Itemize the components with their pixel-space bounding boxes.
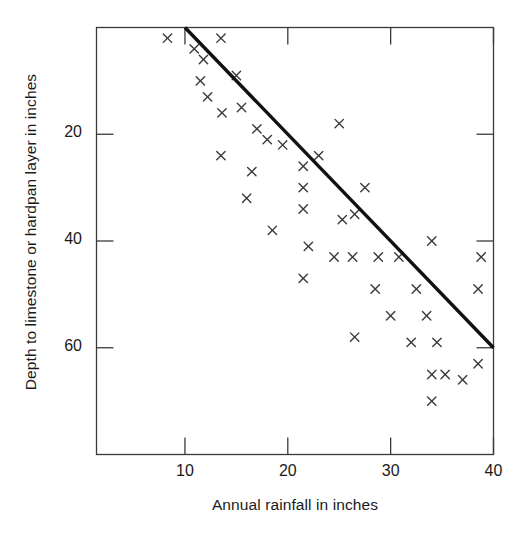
data-point (217, 34, 225, 42)
data-point (237, 103, 245, 111)
data-points (163, 34, 485, 405)
data-point (361, 183, 369, 191)
data-point (407, 338, 415, 346)
x-tick-label: 30 (371, 462, 411, 480)
data-point (348, 253, 356, 261)
data-point (196, 77, 204, 85)
data-point (433, 338, 441, 346)
data-point (218, 109, 226, 117)
data-point (190, 45, 198, 53)
data-point (199, 55, 207, 63)
data-point (304, 242, 312, 250)
scatter-plot-figure: Depth to limestone or hardpan layer in i… (0, 0, 532, 538)
data-point (242, 194, 250, 202)
data-point (268, 226, 276, 234)
y-axis-ticks (97, 134, 494, 348)
data-point (422, 312, 430, 320)
plot-frame (97, 28, 494, 455)
data-point (428, 397, 436, 405)
data-point (217, 151, 225, 159)
data-point (477, 253, 485, 261)
plot-canvas (0, 0, 532, 538)
trend-line (185, 28, 494, 348)
y-tick-label: 60 (38, 337, 82, 355)
data-point (314, 151, 322, 159)
x-tick-label: 10 (165, 462, 205, 480)
data-point (350, 210, 358, 218)
data-point (163, 34, 171, 42)
data-point (299, 183, 307, 191)
data-point (371, 285, 379, 293)
data-point (203, 93, 211, 101)
data-point (263, 135, 271, 143)
y-tick-label: 20 (38, 123, 82, 141)
data-point (428, 237, 436, 245)
x-tick-label: 40 (474, 462, 514, 480)
data-point (338, 215, 346, 223)
data-point (374, 253, 382, 261)
data-point (335, 119, 343, 127)
y-tick-label: 40 (38, 230, 82, 248)
data-point (386, 312, 394, 320)
data-point (253, 125, 261, 133)
x-axis-ticks (185, 28, 494, 455)
data-point (299, 162, 307, 170)
data-point (458, 376, 466, 384)
data-point (278, 141, 286, 149)
data-point (299, 205, 307, 213)
data-point (248, 167, 256, 175)
data-point (474, 360, 482, 368)
data-point (350, 333, 358, 341)
x-axis-title: Annual rainfall in inches (96, 496, 494, 514)
data-point (474, 285, 482, 293)
x-tick-label: 20 (268, 462, 308, 480)
data-point (428, 370, 436, 378)
data-point (299, 274, 307, 282)
data-point (330, 253, 338, 261)
data-point (412, 285, 420, 293)
data-point (441, 370, 449, 378)
